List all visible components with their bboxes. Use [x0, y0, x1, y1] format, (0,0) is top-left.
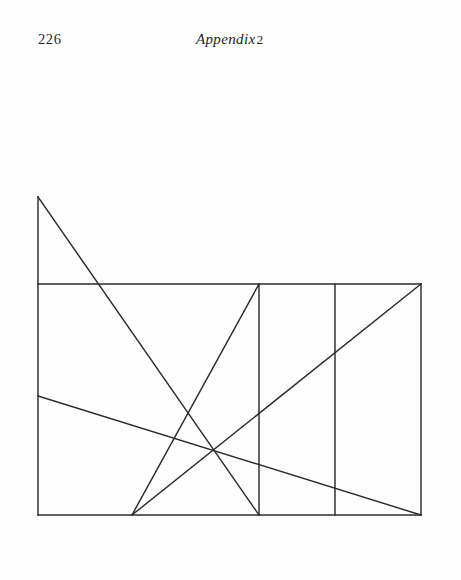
diagram-line-rising-diagonal-long	[132, 284, 421, 515]
diagram-line-apex-diagonal	[38, 197, 259, 515]
diagram-line-rising-diagonal-short	[132, 284, 259, 515]
diagram-canvas	[0, 0, 461, 580]
diagram-line-shallow-descending	[38, 396, 421, 515]
book-page: 226 Appendix2	[0, 0, 461, 580]
geometric-figure	[0, 0, 461, 580]
diagram-line-group	[38, 197, 421, 515]
